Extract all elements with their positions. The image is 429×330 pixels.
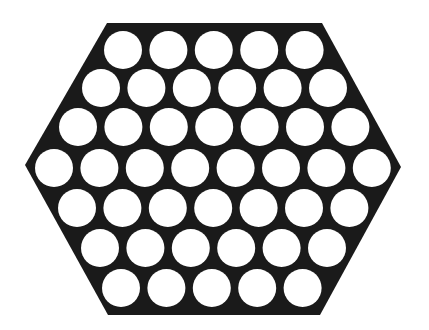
hole-circle [195,31,233,69]
hole-circle [126,229,164,267]
hole-circle [150,108,188,146]
hole-circle [81,229,119,267]
hole-circle [127,69,165,107]
hole-circle [149,189,187,227]
hole-circle [126,149,164,187]
hole-circle [173,69,211,107]
hole-circle [217,229,255,267]
hole-circle [309,69,347,107]
hole-circle [35,149,73,187]
hole-circle [285,189,323,227]
hole-circle [353,149,391,187]
hole-circle [218,69,256,107]
hole-circle [147,269,185,307]
hole-circle [103,189,141,227]
hole-circle [58,189,96,227]
hole-circle [240,189,278,227]
hole-circle [104,31,142,69]
hole-circle [149,31,187,69]
hole-circle [264,69,302,107]
hole-circle [307,149,345,187]
hole-circle [171,149,209,187]
hole-circle [330,189,368,227]
hole-circle [59,108,97,146]
hole-circle [80,149,118,187]
hole-circle [262,149,300,187]
hole-circle [104,108,142,146]
hole-circle [284,269,322,307]
hole-circle [331,108,369,146]
hole-circle [194,189,232,227]
hexagon-plate-diagram [0,0,429,330]
hole-circle [102,269,140,307]
hole-circle [193,269,231,307]
hole-circle [240,31,278,69]
hole-circle [286,31,324,69]
hole-circle [217,149,255,187]
hole-circle [238,269,276,307]
hole-circle [82,69,120,107]
hole-circle [195,108,233,146]
hole-circle [241,108,279,146]
hole-circle [263,229,301,267]
hole-circle [308,229,346,267]
hole-circle [172,229,210,267]
hole-circle [286,108,324,146]
